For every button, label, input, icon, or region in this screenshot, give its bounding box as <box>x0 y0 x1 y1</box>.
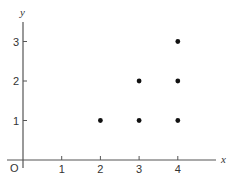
y-tick-label: 2 <box>13 75 19 87</box>
data-point <box>98 118 103 123</box>
data-point <box>175 79 180 84</box>
y-ticks: 123 <box>13 36 27 127</box>
y-axis-label: y <box>19 6 25 18</box>
origin-label: O <box>10 162 19 174</box>
data-points <box>98 39 180 123</box>
data-point <box>175 39 180 44</box>
data-point <box>175 118 180 123</box>
axes <box>7 22 216 168</box>
x-axis-label: x <box>220 153 226 165</box>
scatter-chart: 1234 123 O x y <box>0 0 240 183</box>
x-ticks: 1234 <box>59 156 181 175</box>
x-tick-label: 1 <box>59 163 65 175</box>
data-point <box>137 118 142 123</box>
x-tick-label: 3 <box>136 163 142 175</box>
data-point <box>137 79 142 84</box>
y-tick-label: 1 <box>13 115 19 127</box>
y-tick-label: 3 <box>13 36 19 48</box>
x-tick-label: 4 <box>175 163 181 175</box>
x-tick-label: 2 <box>97 163 103 175</box>
